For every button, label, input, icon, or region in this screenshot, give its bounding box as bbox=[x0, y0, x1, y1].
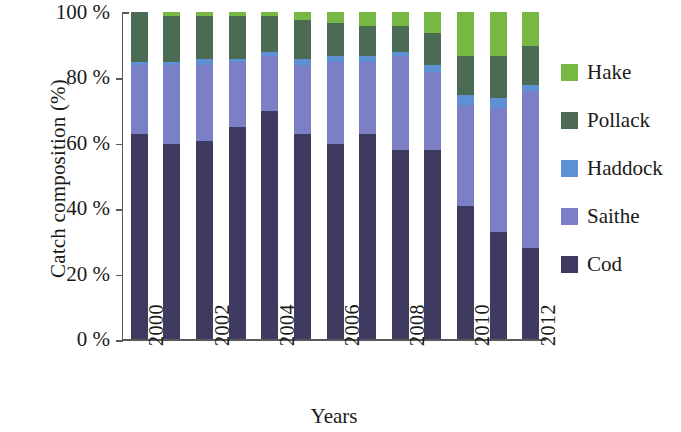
x-axis-tick-label-2000: 2000 bbox=[146, 304, 166, 346]
x-axis-tick-label-2012: 2012 bbox=[538, 304, 558, 346]
bar-segment-hake bbox=[424, 12, 441, 32]
bar-segment-saithe bbox=[261, 55, 278, 111]
y-axis-top-cap bbox=[122, 12, 129, 14]
bar-segment-pollack bbox=[522, 45, 539, 85]
bar-segment-pollack bbox=[261, 16, 278, 53]
bar-2012 bbox=[522, 13, 539, 340]
bar-segment-haddock bbox=[359, 55, 376, 62]
x-axis-tick-label-2002: 2002 bbox=[212, 304, 232, 346]
legend-label: Saithe bbox=[587, 206, 640, 227]
y-axis-tick-mark bbox=[116, 209, 123, 211]
bar-segment-saithe bbox=[229, 61, 246, 127]
x-axis-tick-label-2010: 2010 bbox=[472, 304, 492, 346]
x-axis-tick-label-2006: 2006 bbox=[342, 304, 362, 346]
y-axis-tick-label: 20 % bbox=[38, 264, 110, 285]
bar-2005 bbox=[294, 13, 311, 340]
bar-segment-hake bbox=[522, 12, 539, 45]
bar-segment-hake bbox=[163, 12, 180, 16]
bar-segment-haddock bbox=[457, 94, 474, 104]
bar-2008 bbox=[392, 13, 409, 340]
legend-swatch-pollack-icon bbox=[561, 112, 578, 129]
bar-segment-pollack bbox=[359, 26, 376, 56]
bar-segment-pollack bbox=[457, 55, 474, 95]
bar-segment-pollack bbox=[163, 16, 180, 62]
bar-segment-hake bbox=[359, 12, 376, 26]
legend-item-pollack: Pollack bbox=[561, 96, 681, 144]
bar-segment-haddock bbox=[424, 65, 441, 72]
legend-item-hake: Hake bbox=[561, 48, 681, 96]
bar-segment-pollack bbox=[196, 16, 213, 59]
legend-label: Pollack bbox=[587, 110, 650, 131]
bar-segment-pollack bbox=[392, 26, 409, 53]
bar-segment-saithe bbox=[522, 91, 539, 249]
bar-segment-haddock bbox=[294, 58, 311, 65]
bar-segment-hake bbox=[294, 12, 311, 19]
bar-segment-pollack bbox=[490, 55, 507, 98]
chart-figure: Catch composition (%) 0 %20 %40 %60 %80 … bbox=[0, 0, 681, 432]
x-axis-tick-label-2008: 2008 bbox=[407, 304, 427, 346]
bar-2006 bbox=[327, 13, 344, 340]
legend-label: Hake bbox=[587, 62, 631, 83]
legend-item-haddock: Haddock bbox=[561, 144, 681, 192]
y-axis-tick-labels: 0 %20 %40 %60 %80 %100 % bbox=[38, 0, 110, 432]
bar-2000 bbox=[131, 13, 148, 340]
bar-2004 bbox=[261, 13, 278, 340]
bar-2001 bbox=[163, 13, 180, 340]
y-axis-tick-label: 40 % bbox=[38, 198, 110, 219]
bar-2002 bbox=[196, 13, 213, 340]
bar-segment-haddock bbox=[522, 84, 539, 91]
bar-2003 bbox=[229, 13, 246, 340]
bar-segment-saithe bbox=[457, 104, 474, 206]
x-axis-title: Years bbox=[122, 404, 546, 429]
bar-segment-pollack bbox=[424, 32, 441, 65]
bar-segment-hake bbox=[261, 12, 278, 16]
legend-label: Cod bbox=[587, 254, 622, 275]
legend-item-cod: Cod bbox=[561, 240, 681, 288]
bar-2011 bbox=[490, 13, 507, 340]
bar-segment-hake bbox=[196, 12, 213, 16]
legend-swatch-haddock-icon bbox=[561, 160, 578, 177]
bar-segment-haddock bbox=[229, 58, 246, 62]
bar-segment-saithe bbox=[490, 107, 507, 232]
y-axis-tick-label: 100 % bbox=[38, 2, 110, 23]
y-axis-tick-label: 0 % bbox=[38, 329, 110, 350]
y-axis-tick-label: 60 % bbox=[38, 133, 110, 154]
legend-item-saithe: Saithe bbox=[561, 192, 681, 240]
legend-swatch-cod-icon bbox=[561, 256, 578, 273]
bar-segment-saithe bbox=[131, 65, 148, 134]
legend-swatch-saithe-icon bbox=[561, 208, 578, 225]
bar-segment-saithe bbox=[359, 61, 376, 134]
y-axis-tick-mark bbox=[116, 78, 123, 80]
legend-swatch-hake-icon bbox=[561, 64, 578, 81]
bar-segment-hake bbox=[392, 12, 409, 26]
bar-segment-hake bbox=[327, 12, 344, 22]
bar-segment-saithe bbox=[327, 61, 344, 143]
bar-segment-hake bbox=[490, 12, 507, 55]
bar-segment-haddock bbox=[327, 55, 344, 62]
y-axis-tick-label: 80 % bbox=[38, 67, 110, 88]
plot-area bbox=[122, 13, 546, 340]
bar-segment-hake bbox=[229, 12, 246, 16]
bar-segment-hake bbox=[457, 12, 474, 55]
y-axis-tick-mark bbox=[116, 275, 123, 277]
bar-segment-pollack bbox=[294, 19, 311, 59]
bar-segment-saithe bbox=[196, 65, 213, 141]
bar-2010 bbox=[457, 13, 474, 340]
bar-segment-pollack bbox=[131, 12, 148, 62]
bar-segment-saithe bbox=[294, 65, 311, 134]
bar-segment-pollack bbox=[327, 22, 344, 55]
bar-segment-haddock bbox=[196, 58, 213, 65]
bar-2007 bbox=[359, 13, 376, 340]
bar-segment-saithe bbox=[163, 65, 180, 144]
bar-2009 bbox=[424, 13, 441, 340]
y-axis-tick-mark bbox=[116, 144, 123, 146]
bar-segment-saithe bbox=[424, 71, 441, 150]
x-axis-tick-label-2004: 2004 bbox=[277, 304, 297, 346]
chart-legend: HakePollackHaddockSaitheCod bbox=[561, 48, 681, 288]
bar-segment-haddock bbox=[490, 97, 507, 107]
legend-label: Haddock bbox=[587, 158, 663, 179]
bar-segment-saithe bbox=[392, 55, 409, 150]
bar-segment-pollack bbox=[229, 16, 246, 59]
